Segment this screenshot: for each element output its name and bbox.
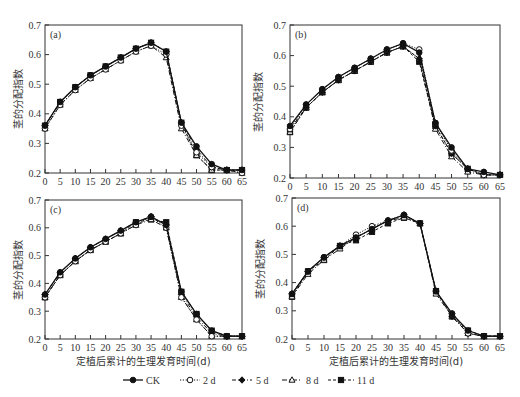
x-tick-label: 0 — [290, 342, 295, 353]
series-line — [290, 43, 500, 175]
legend-label: 8 d — [306, 375, 319, 386]
series-line — [290, 46, 500, 175]
series-5-d — [287, 43, 503, 178]
data-point-marker — [368, 56, 374, 62]
data-point-marker — [133, 46, 139, 52]
y-tick-label: 0.6 — [29, 222, 42, 233]
x-tick-label: 20 — [101, 342, 111, 353]
x-tick-label: 45 — [430, 181, 440, 192]
x-tick-label: 0 — [288, 181, 293, 192]
panel-label: (c) — [50, 204, 61, 216]
x-tick-label: 10 — [70, 342, 80, 353]
y-axis-title: 茎的分配指数 — [12, 69, 24, 129]
series-line — [292, 218, 500, 337]
x-tick-label: 0 — [43, 176, 48, 187]
x-tick-label: 60 — [222, 176, 232, 187]
x-tick-label: 15 — [335, 342, 345, 353]
data-point-marker — [433, 288, 439, 294]
legend-label: 11 d — [357, 375, 374, 386]
x-tick-label: 35 — [398, 181, 408, 192]
series-2-d — [287, 41, 503, 178]
x-tick-label: 5 — [58, 342, 63, 353]
series-8-d — [287, 43, 503, 177]
y-tick-label: 0.5 — [274, 81, 287, 92]
x-tick-label: 55 — [207, 342, 217, 353]
data-point-marker — [336, 74, 342, 80]
x-tick-label: 25 — [116, 342, 126, 353]
data-point-marker — [148, 40, 154, 46]
data-point-marker — [88, 244, 94, 250]
series-line — [45, 220, 242, 337]
data-point-marker — [57, 269, 63, 275]
y-tick-label: 0.2 — [29, 168, 42, 179]
x-tick-label: 35 — [399, 342, 409, 353]
series-ck — [42, 40, 245, 173]
x-tick-label: 50 — [192, 342, 202, 353]
legend-label: 5 d — [256, 375, 269, 386]
data-point-marker — [209, 161, 215, 167]
legend-marker-icon — [130, 377, 136, 383]
data-point-marker — [57, 99, 63, 105]
data-point-marker — [163, 49, 169, 55]
x-tick-label: 60 — [479, 342, 489, 353]
data-point-marker — [194, 317, 200, 323]
x-tick-label: 30 — [131, 176, 141, 187]
data-point-marker — [465, 166, 471, 172]
y-tick-label: 0.2 — [276, 334, 289, 345]
data-point-marker — [289, 291, 295, 297]
data-point-marker — [73, 84, 79, 90]
data-point-marker — [287, 123, 293, 129]
x-tick-label: 60 — [479, 181, 489, 192]
y-tick-label: 0.6 — [29, 49, 42, 60]
data-point-marker — [369, 226, 375, 232]
data-point-marker — [133, 219, 139, 225]
y-tick-label: 0.5 — [276, 249, 289, 260]
y-tick-label: 0.5 — [29, 250, 42, 261]
series-2-d — [289, 212, 503, 339]
data-point-marker — [73, 256, 79, 262]
x-tick-label: 40 — [161, 342, 171, 353]
data-point-marker — [239, 167, 245, 173]
figure: 051015202530354045505560650.20.30.40.50.… — [0, 0, 520, 397]
data-point-marker — [209, 333, 215, 339]
y-tick-label: 0.7 — [29, 20, 42, 31]
series-line — [292, 215, 500, 336]
x-tick-label: 55 — [463, 342, 473, 353]
panel-label: (b) — [295, 29, 307, 41]
x-tick-label: 45 — [431, 342, 441, 353]
series-line — [45, 46, 242, 173]
series-line — [292, 215, 500, 336]
y-tick-label: 0.3 — [274, 142, 287, 153]
data-point-marker — [194, 149, 200, 155]
panel-label: (d) — [297, 202, 309, 214]
data-point-marker — [209, 328, 215, 334]
series-line — [292, 218, 500, 337]
x-tick-label: 30 — [383, 342, 393, 353]
series-line — [45, 217, 242, 337]
data-point-marker — [305, 269, 311, 275]
data-point-marker — [449, 311, 455, 317]
x-tick-label: 25 — [367, 342, 377, 353]
series-5-d — [289, 212, 503, 340]
legend-label: 2 d — [203, 375, 216, 386]
x-tick-label: 30 — [382, 181, 392, 192]
x-tick-label: 0 — [43, 342, 48, 353]
data-point-marker — [400, 41, 406, 47]
x-tick-label: 10 — [70, 176, 80, 187]
series-ck — [42, 214, 245, 339]
legend-item-2-d: 2 d — [180, 375, 216, 386]
x-tick-label: 15 — [85, 176, 95, 187]
y-tick-label: 0.6 — [274, 50, 287, 61]
data-point-marker — [449, 145, 455, 151]
series-line — [45, 217, 242, 337]
x-tick-label: 50 — [192, 176, 202, 187]
chart-panel-b: 051015202530354045505560650.20.30.40.50.… — [252, 20, 505, 193]
data-point-marker — [497, 172, 503, 178]
legend-item-11-d: 11 d — [328, 375, 374, 386]
data-point-marker — [194, 311, 200, 317]
series-2-d — [42, 214, 245, 339]
x-tick-label: 20 — [101, 176, 111, 187]
series-line — [45, 43, 242, 170]
data-point-marker — [179, 120, 185, 126]
data-point-marker — [194, 144, 200, 150]
